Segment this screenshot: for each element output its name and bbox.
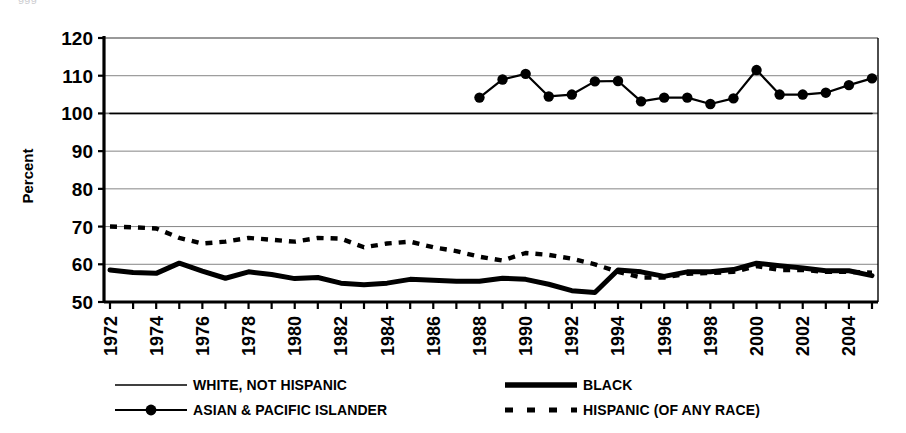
x-axis-tick-labels: 1972197419761978198019821984198619881990… bbox=[101, 316, 860, 356]
x-axis-tick-label: 1990 bbox=[516, 316, 536, 356]
series-marker-2 bbox=[613, 76, 623, 86]
x-axis-tick-label: 1994 bbox=[608, 316, 628, 356]
series-marker-2 bbox=[751, 65, 761, 75]
legend-label-2: ASIAN & PACIFIC ISLANDER bbox=[193, 402, 387, 418]
x-axis-tick-label: 2002 bbox=[793, 316, 813, 356]
y-axis-title: Percent bbox=[19, 148, 36, 203]
x-axis-tick-label: 1998 bbox=[701, 316, 721, 356]
x-axis-tick-label: 1988 bbox=[470, 316, 490, 356]
series-marker-2 bbox=[682, 92, 692, 102]
series-marker-2 bbox=[544, 91, 554, 101]
x-axis-tick-label: 2000 bbox=[747, 316, 767, 356]
legend-label-1: BLACK bbox=[583, 377, 633, 393]
x-axis-tick-label: 1996 bbox=[655, 316, 675, 356]
x-axis-tick-label: 1972 bbox=[101, 316, 121, 356]
series-marker-2 bbox=[705, 99, 715, 109]
y-axis-tick-labels: 5060708090100110120 bbox=[61, 28, 93, 313]
x-axis-tick-label: 1976 bbox=[193, 316, 213, 356]
legend-label-3: HISPANIC (OF ANY RACE) bbox=[583, 402, 760, 418]
y-axis-tick-label: 100 bbox=[61, 103, 93, 124]
x-axis-tick-label: 1980 bbox=[285, 316, 305, 356]
series-marker-2 bbox=[474, 92, 484, 102]
series-marker-2 bbox=[798, 89, 808, 99]
chart-figure: 5060708090100110120 19721974197619781980… bbox=[0, 0, 906, 433]
y-axis-tick-label: 80 bbox=[72, 179, 93, 200]
y-axis-tick-label: 50 bbox=[72, 292, 93, 313]
y-axis-tick-label: 90 bbox=[72, 141, 93, 162]
x-axis-tick-label: 1992 bbox=[562, 316, 582, 356]
series-line-2 bbox=[479, 70, 872, 104]
series-marker-2 bbox=[844, 80, 854, 90]
x-axis-tick-label: 1978 bbox=[239, 316, 259, 356]
series-marker-2 bbox=[497, 74, 507, 84]
y-axis-tick-label: 70 bbox=[72, 217, 93, 238]
y-axis-tick-label: 110 bbox=[62, 66, 93, 87]
legend-label-0: WHITE, NOT HISPANIC bbox=[193, 377, 347, 393]
chart-canvas: 5060708090100110120 19721974197619781980… bbox=[0, 0, 906, 433]
series-line-3 bbox=[110, 227, 872, 278]
y-axis-tick-label: 60 bbox=[72, 254, 93, 275]
legend-marker-2 bbox=[146, 405, 157, 416]
x-axis-tick-label: 1984 bbox=[378, 316, 398, 356]
series-marker-2 bbox=[821, 87, 831, 97]
series-marker-2 bbox=[774, 89, 784, 99]
chart-legend: WHITE, NOT HISPANICBLACKASIAN & PACIFIC … bbox=[115, 377, 760, 418]
x-axis-tick-label: 1982 bbox=[331, 316, 351, 356]
x-axis-tick-label: 1974 bbox=[147, 316, 167, 356]
series-marker-2 bbox=[867, 73, 877, 83]
series-marker-2 bbox=[590, 76, 600, 86]
series-marker-2 bbox=[520, 69, 530, 79]
y-axis-tick-label: 120 bbox=[61, 28, 93, 49]
series-marker-2 bbox=[659, 92, 669, 102]
series-marker-2 bbox=[728, 93, 738, 103]
x-axis-tick-label: 1986 bbox=[424, 316, 444, 356]
series-marker-2 bbox=[636, 96, 646, 106]
series-marker-2 bbox=[567, 89, 577, 99]
data-series-layer bbox=[110, 65, 877, 293]
x-axis-tick-label: 2004 bbox=[839, 316, 859, 356]
